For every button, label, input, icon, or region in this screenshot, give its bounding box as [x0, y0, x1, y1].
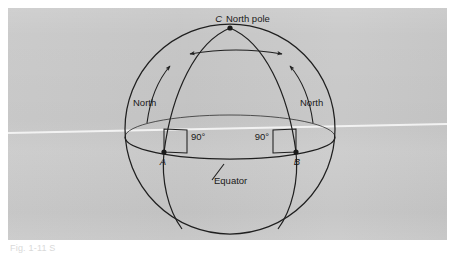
scan-streak — [8, 124, 447, 133]
north-label-left: North — [133, 97, 156, 108]
point-a-marker — [161, 149, 166, 154]
globe-diagram: C North pole A B 90° 90° North North Equ… — [0, 0, 455, 256]
angle-c-arc-arrow — [190, 50, 282, 54]
figure-caption: Fig. 1-11 S — [10, 243, 56, 253]
pole-point-marker — [227, 25, 232, 30]
equator-front-arc — [125, 137, 335, 159]
angle-label-right: 90° — [255, 131, 270, 142]
angle-label-left: 90° — [191, 131, 206, 142]
north-pole-label: North pole — [226, 13, 270, 24]
equator-label: Equator — [214, 175, 247, 186]
pole-point-label: C — [215, 13, 222, 24]
point-b-label: B — [294, 156, 301, 167]
point-a-label: A — [159, 156, 166, 167]
figure-root: C North pole A B 90° 90° North North Equ… — [0, 0, 455, 256]
north-label-right: North — [300, 97, 323, 108]
north-arrow-left — [147, 66, 170, 123]
point-b-marker — [293, 149, 298, 154]
north-arrow-right — [290, 66, 313, 123]
